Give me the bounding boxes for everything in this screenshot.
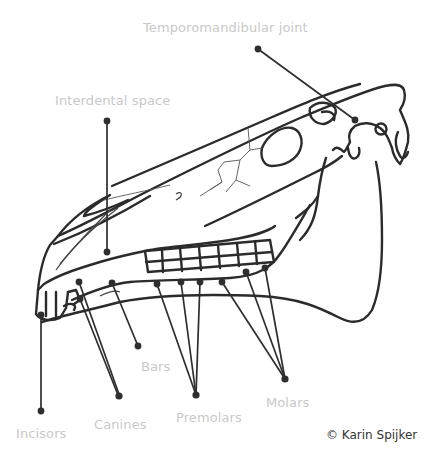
skull-diagram: Temporomandibular joint Interdental spac… [0,0,442,466]
skull-illustration [0,0,442,466]
copyright-notice: © Karin Spijker [326,428,417,442]
label-premolars: Premolars [176,410,242,425]
label-interdental-space: Interdental space [55,93,170,108]
cranium-outline [38,84,408,290]
upper-cheek-teeth [145,240,274,272]
suture-lines [200,128,262,196]
mandible-outline [42,158,382,322]
label-molars: Molars [266,395,309,410]
label-canines: Canines [94,417,147,432]
label-bars: Bars [141,359,170,374]
label-incisors: Incisors [16,426,66,441]
label-temporomandibular-joint: Temporomandibular joint [143,20,308,35]
